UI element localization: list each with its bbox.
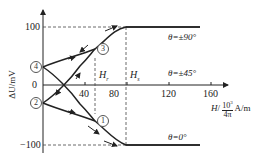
- hs-label: Hs: [130, 70, 140, 82]
- x-tick-120: 120: [161, 89, 176, 99]
- legend-theta-45: θ=±45°: [168, 69, 196, 78]
- legend-theta-90: θ=±90°: [168, 33, 196, 42]
- x-tick-160: 160: [203, 89, 218, 99]
- marker-4: 4: [30, 61, 42, 73]
- x-tick-40: 40: [79, 89, 89, 99]
- y-tick-0: 0: [32, 80, 37, 90]
- x-tick-80: 80: [109, 89, 119, 99]
- y-tick-neg100: −100: [20, 140, 41, 150]
- y-tick-100: 100: [25, 22, 40, 32]
- marker-1: 1: [97, 115, 109, 127]
- legend-theta-0: θ=0°: [168, 133, 187, 142]
- marker-2: 2: [30, 97, 42, 109]
- hr-label: Hr: [99, 70, 109, 82]
- marker-3: 3: [97, 43, 109, 55]
- y-axis-label: ΔU/mV: [8, 70, 17, 98]
- x-axis-unit: H/ 103 4π A/m: [211, 100, 251, 119]
